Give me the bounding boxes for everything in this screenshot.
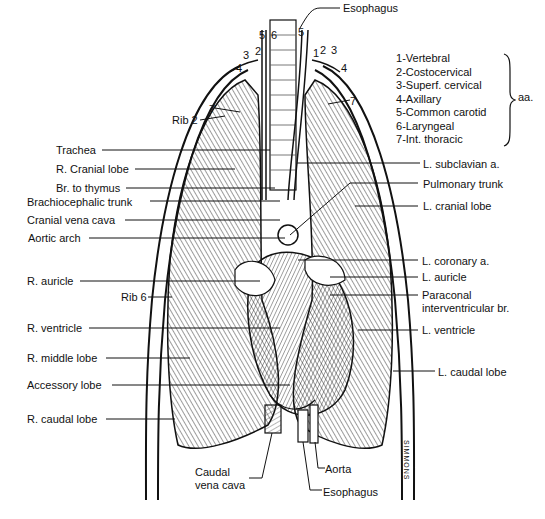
number-6: 6 (271, 30, 277, 41)
label-l-coronary-a: L. coronary a. (422, 255, 489, 267)
number-2-left: 2 (255, 46, 261, 57)
legend-item: 5-Common carotid (396, 106, 487, 120)
number-4-right: 4 (341, 63, 347, 74)
label-r-ventricle: R. ventricle (27, 322, 82, 334)
label-cranial-vena-cava: Cranial vena cava (27, 214, 115, 226)
number-3-right: 3 (331, 45, 337, 56)
label-l-caudal-lobe: L. caudal lobe (438, 366, 507, 378)
label-accessory-lobe: Accessory lobe (27, 379, 102, 391)
label-trachea: Trachea (56, 144, 96, 156)
aortic-arch (278, 225, 298, 245)
label-r-caudal-lobe: R. caudal lobe (27, 413, 97, 425)
label-rib-2: Rib 2 (172, 114, 198, 126)
legend-item: 7-Int. thoracic (396, 133, 487, 147)
caudal-vena-cava (265, 405, 281, 433)
label-rib-6: Rib 6 (121, 291, 147, 303)
label-caudal-vena-cava-line1: Caudal (195, 466, 230, 478)
artery-legend: 1-Vertebral 2-Costocervical 3-Superf. ce… (396, 52, 487, 147)
label-paraconal-line1: Paraconal (422, 289, 472, 301)
label-esophagus-bottom: Esophagus (323, 486, 378, 498)
label-r-auricle: R. auricle (27, 275, 73, 287)
number-7-left: 7 (209, 104, 215, 115)
label-brachiocephalic-trunk: Brachiocephalic trunk (27, 196, 132, 208)
number-4-left: 4 (236, 63, 242, 74)
number-7-right: 7 (350, 96, 356, 107)
number-1-right: 1 (313, 48, 319, 59)
label-paraconal-line2: interventricular br. (422, 302, 509, 314)
label-l-cranial-lobe: L. cranial lobe (423, 200, 492, 212)
artist-signature: SIMMONS (400, 440, 412, 480)
label-br-to-thymus: Br. to thymus (56, 182, 120, 194)
legend-item: 3-Superf. cervical (396, 79, 487, 93)
label-esophagus-top: Esophagus (343, 2, 398, 14)
legend-item: 1-Vertebral (396, 52, 487, 66)
legend-item: 4-Axillary (396, 93, 487, 107)
brace-icon (502, 52, 516, 148)
number-3-left: 3 (243, 50, 249, 61)
legend-item: 2-Costocervical (396, 66, 487, 80)
number-5-left: 5 (259, 30, 265, 41)
arteries-suffix: aa. (518, 91, 533, 103)
number-5-right: 5 (298, 27, 304, 38)
label-l-auricle: L. auricle (422, 271, 467, 283)
legend-item: 6-Laryngeal (396, 120, 487, 134)
label-aorta: Aorta (325, 463, 351, 475)
label-pulmonary-trunk: Pulmonary trunk (423, 178, 503, 190)
aorta-caudal (310, 405, 318, 443)
label-r-cranial-lobe: R. Cranial lobe (56, 163, 129, 175)
esophagus-caudal (298, 410, 308, 442)
label-l-subclavian-a: L. subclavian a. (423, 158, 499, 170)
label-l-ventricle: L. ventricle (422, 324, 475, 336)
trachea (270, 20, 296, 190)
label-aortic-arch: Aortic arch (28, 232, 81, 244)
label-caudal-vena-cava-line2: vena cava (195, 479, 245, 491)
label-r-middle-lobe: R. middle lobe (27, 352, 97, 364)
number-2-right: 2 (320, 45, 326, 56)
